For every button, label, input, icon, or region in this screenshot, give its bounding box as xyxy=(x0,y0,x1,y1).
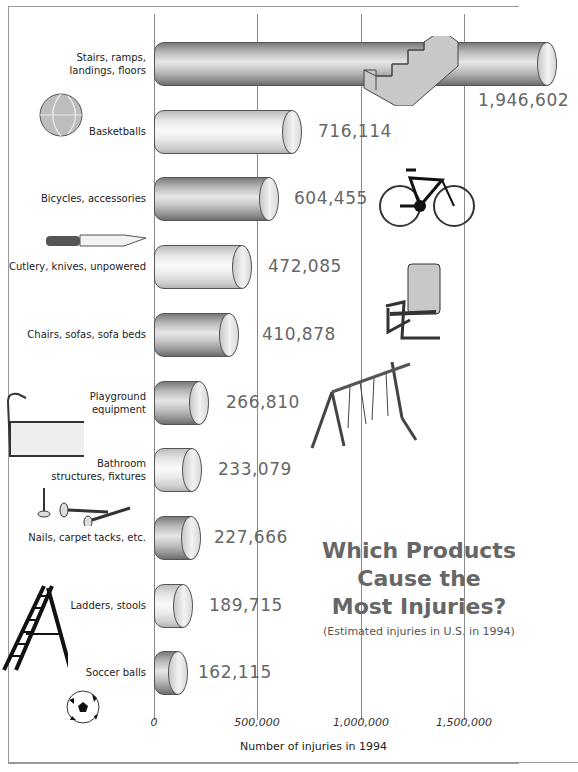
bar xyxy=(154,110,292,154)
category-label: Nails, carpet tacks, etc. xyxy=(28,531,146,544)
bar-end-cap xyxy=(168,651,188,695)
category-label: Stairs, ramps, landings, floors xyxy=(70,51,146,77)
chart-subtitle: (Estimated injuries in U.S. in 1994) xyxy=(312,625,526,638)
bathtub-icon xyxy=(4,392,84,458)
swing-set-icon xyxy=(310,360,428,452)
bar-end-cap xyxy=(219,313,239,357)
nails-icon xyxy=(36,486,136,526)
chart-title: Which Products Cause the Most Injuries? xyxy=(312,537,526,621)
category-label-line: Cutlery, knives, unpowered xyxy=(9,260,146,273)
category-label-line: Soccer balls xyxy=(86,666,146,679)
category-label-line: Basketballs xyxy=(89,125,146,138)
bar xyxy=(154,177,269,221)
chart-frame-bottom xyxy=(8,762,578,763)
bar xyxy=(154,651,178,695)
value-label: 716,114 xyxy=(318,121,392,141)
bar-end-cap xyxy=(182,448,202,492)
category-label: Playground equipment xyxy=(90,390,146,416)
bar-end-cap xyxy=(232,245,252,289)
category-label-line: equipment xyxy=(90,403,146,416)
bar xyxy=(154,42,547,86)
bar xyxy=(154,381,199,425)
category-label-line: Nails, carpet tacks, etc. xyxy=(28,531,146,544)
stairs-icon xyxy=(362,36,462,106)
category-label: Ladders, stools xyxy=(70,599,146,612)
bar xyxy=(154,313,229,357)
x-axis-label: Number of injuries in 1994 xyxy=(240,740,387,753)
value-label: 266,810 xyxy=(226,392,300,412)
chart-title-line: Most Injuries? xyxy=(312,593,526,621)
bar-end-cap xyxy=(537,42,557,86)
bicycle-icon xyxy=(378,164,478,228)
knife-icon xyxy=(44,232,148,250)
bar xyxy=(154,584,183,628)
category-label-line: Stairs, ramps, xyxy=(70,51,146,64)
bar xyxy=(154,245,242,289)
category-label: Bicycles, accessories xyxy=(41,192,146,205)
x-tick-label: 500,000 xyxy=(234,716,280,729)
basketball-icon xyxy=(38,92,84,138)
x-tick-label: 1,000,000 xyxy=(333,716,389,729)
soccer-ball-icon xyxy=(66,690,100,724)
chart-title-line: Which Products xyxy=(312,537,526,565)
value-label: 410,878 xyxy=(262,324,336,344)
category-label-line: Ladders, stools xyxy=(70,599,146,612)
category-label-line: Bicycles, accessories xyxy=(41,192,146,205)
bar xyxy=(154,448,192,492)
category-label: Basketballs xyxy=(89,125,146,138)
value-label: 227,666 xyxy=(214,527,288,547)
bar-end-cap xyxy=(189,381,209,425)
category-label-line: Playground xyxy=(90,390,146,403)
chart-title-line: Cause the xyxy=(312,565,526,593)
value-label: 604,455 xyxy=(294,188,368,208)
bar-end-cap xyxy=(259,177,279,221)
x-tick-label: 1,500,000 xyxy=(436,716,492,729)
value-label: 189,715 xyxy=(209,595,283,615)
value-label: 233,079 xyxy=(218,459,292,479)
bar-end-cap xyxy=(181,516,201,560)
bar xyxy=(154,516,191,560)
category-label: Cutlery, knives, unpowered xyxy=(9,260,146,273)
category-label-line: structures, fixtures xyxy=(51,470,146,483)
category-label-line: Bathroom xyxy=(51,457,146,470)
category-label-line: Chairs, sofas, sofa beds xyxy=(27,328,146,341)
value-label: 472,085 xyxy=(268,256,342,276)
value-label: 162,115 xyxy=(198,662,272,682)
ladder-icon xyxy=(2,582,68,672)
category-label: Soccer balls xyxy=(86,666,146,679)
chair-icon xyxy=(380,262,442,348)
value-label: 1,946,602 xyxy=(478,90,569,110)
category-label: Bathroom structures, fixtures xyxy=(51,457,146,483)
category-label-line: landings, floors xyxy=(70,64,146,77)
bar-end-cap xyxy=(173,584,193,628)
x-tick-label: 0 xyxy=(151,716,158,729)
category-label: Chairs, sofas, sofa beds xyxy=(27,328,146,341)
bar-end-cap xyxy=(282,110,302,154)
